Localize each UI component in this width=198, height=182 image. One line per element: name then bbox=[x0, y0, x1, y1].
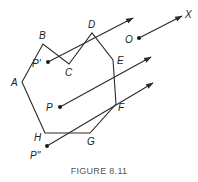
vertex-label-e: E bbox=[117, 55, 124, 66]
figure-caption: FIGURE 8.11 bbox=[71, 166, 128, 176]
vertex-label-f: F bbox=[118, 102, 125, 113]
points bbox=[45, 36, 141, 148]
ray-label-x: X bbox=[184, 9, 192, 20]
point-label-p-double-prime: P'' bbox=[30, 150, 42, 161]
vertex-label-d: D bbox=[88, 19, 95, 30]
point-labels: OP'PP'' bbox=[30, 34, 133, 161]
vertex-label-b: B bbox=[39, 30, 46, 41]
ray-p-arrow-icon bbox=[60, 57, 151, 107]
point-p-double-prime-dot-icon bbox=[45, 144, 49, 148]
point-label-p-prime: P' bbox=[32, 58, 42, 69]
point-label-p: P bbox=[46, 102, 53, 113]
figure-8-11: ABCDEFGH OP'PP'' X FIGURE 8.11 bbox=[0, 0, 198, 182]
vertex-label-a: A bbox=[10, 77, 18, 88]
ray-p-double-prime-arrow-icon bbox=[47, 83, 153, 146]
point-o-dot-icon bbox=[137, 36, 141, 40]
point-p-dot-icon bbox=[58, 105, 62, 109]
vertex-labels: ABCDEFGH bbox=[10, 19, 125, 147]
point-p-prime-dot-icon bbox=[46, 60, 50, 64]
vertex-label-c: C bbox=[65, 67, 73, 78]
point-label-o: O bbox=[125, 34, 133, 45]
polygon-ABCDEFGH bbox=[22, 33, 116, 133]
ray-o-arrow-icon bbox=[139, 16, 182, 38]
vertex-label-h: H bbox=[34, 132, 42, 143]
vertex-label-g: G bbox=[87, 136, 95, 147]
